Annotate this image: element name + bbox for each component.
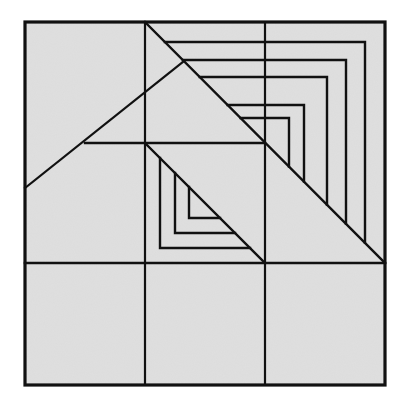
quilt-diagram xyxy=(0,0,409,411)
